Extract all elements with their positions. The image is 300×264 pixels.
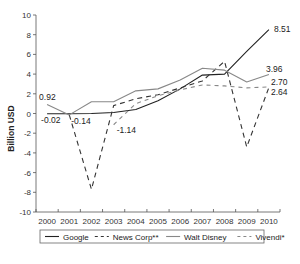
data-label: -0.14 xyxy=(71,116,91,126)
y-tick-label: -8 xyxy=(24,188,32,197)
series-line-google xyxy=(47,30,269,114)
x-tick-label: 2010 xyxy=(260,217,278,226)
data-label: 0.92 xyxy=(39,92,56,102)
legend-label: News Corp** xyxy=(113,233,159,242)
x-tick-label: 2002 xyxy=(83,217,101,226)
y-tick-label: -4 xyxy=(24,149,32,158)
series-lines xyxy=(47,30,269,190)
y-axis-label: Billion USD xyxy=(6,105,16,151)
y-tick-label: -10 xyxy=(19,208,31,217)
x-tick-label: 2009 xyxy=(238,217,256,226)
x-tick-label: 2000 xyxy=(38,217,56,226)
x-tick-label: 2007 xyxy=(193,217,211,226)
series-line-walt-disney xyxy=(47,68,269,115)
data-label: -0.02 xyxy=(41,115,61,125)
y-tick-label: -6 xyxy=(24,169,32,178)
y-tick-label: -2 xyxy=(24,129,32,138)
data-label: -1.14 xyxy=(117,125,137,135)
x-tick-label: 2003 xyxy=(105,217,123,226)
legend: GoogleNews Corp**Walt DisneyVivendi* xyxy=(40,230,285,243)
data-labels: 0.92-0.02-0.14-1.148.513.962.702.64 xyxy=(39,24,291,135)
y-tick-label: 8 xyxy=(27,31,32,40)
y-tick-label: 6 xyxy=(27,50,32,59)
data-label: 2.64 xyxy=(271,87,288,97)
x-tick-label: 2005 xyxy=(149,217,167,226)
legend-label: Walt Disney xyxy=(184,233,226,242)
x-tick-label: 2006 xyxy=(171,217,189,226)
data-label: 8.51 xyxy=(274,24,291,34)
x-tick-label: 2004 xyxy=(127,217,145,226)
y-tick-label: 4 xyxy=(27,70,32,79)
y-tick-label: 2 xyxy=(27,90,32,99)
x-tick-label: 2001 xyxy=(60,217,78,226)
legend-label: Vivendi* xyxy=(255,233,284,242)
data-label: 2.70 xyxy=(271,77,288,87)
x-tick-label: 2008 xyxy=(216,217,234,226)
line-chart: 1086420-2-4-6-8-10Billion USD20002001200… xyxy=(0,0,300,264)
legend-label: Google xyxy=(63,233,89,242)
y-tick-label: 0 xyxy=(27,110,32,119)
data-label: 3.96 xyxy=(266,64,283,74)
y-tick-label: 10 xyxy=(22,11,31,20)
series-line-news-corp xyxy=(69,61,269,189)
